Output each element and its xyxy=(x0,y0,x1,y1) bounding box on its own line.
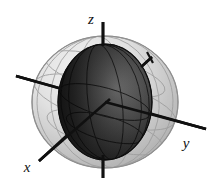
axis-label-z: z xyxy=(87,11,94,27)
geometry-figure-svg: z y x xyxy=(0,0,216,190)
figure-root: z y x xyxy=(0,0,216,190)
axis-label-x: x xyxy=(23,159,31,175)
axis-label-y: y xyxy=(181,135,190,151)
